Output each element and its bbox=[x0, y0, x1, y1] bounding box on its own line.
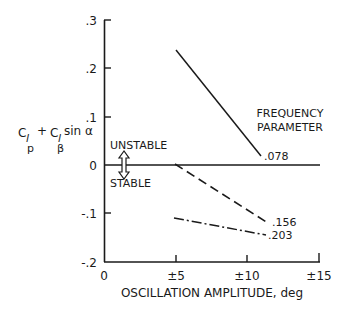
series-label-156: .156 bbox=[272, 216, 297, 229]
x-tick-label: ±15 bbox=[306, 269, 331, 283]
x-axis-label: OSCILLATION AMPLITUDE, deg bbox=[121, 286, 303, 300]
svg-text:sin α: sin α bbox=[64, 124, 93, 138]
svg-text:p: p bbox=[27, 142, 34, 155]
series-label-203: .203 bbox=[268, 229, 293, 242]
svg-text:β: β bbox=[57, 142, 64, 155]
y-axis-label: C l p + C l β sin α bbox=[18, 124, 93, 155]
chart: .3 .2 .1 0 -.1 -.2 0 ±5 ±10 ±15 OSCILLAT… bbox=[0, 0, 345, 314]
legend-title-line1: FREQUENCY bbox=[256, 107, 323, 120]
y-tick-label: .1 bbox=[86, 111, 97, 125]
series-078-line bbox=[176, 50, 261, 156]
series-203-line bbox=[174, 218, 266, 235]
y-tick-label: .3 bbox=[86, 14, 97, 28]
legend-title-line2: PARAMETER bbox=[257, 121, 323, 134]
series-156-line bbox=[175, 164, 268, 223]
y-tick-label: .2 bbox=[86, 62, 97, 76]
x-ticks bbox=[176, 253, 319, 262]
y-tick-label: 0 bbox=[89, 159, 97, 173]
svg-text:+: + bbox=[37, 124, 47, 138]
x-tick-label: 0 bbox=[100, 269, 108, 283]
stable-label: STABLE bbox=[110, 177, 151, 190]
x-tick-label: ±10 bbox=[234, 269, 259, 283]
y-tick-label: -.1 bbox=[81, 207, 97, 221]
series-label-078: .078 bbox=[264, 150, 289, 163]
x-tick-label: ±5 bbox=[167, 269, 185, 283]
unstable-label: UNSTABLE bbox=[110, 139, 167, 152]
y-tick-label: -.2 bbox=[81, 256, 97, 270]
